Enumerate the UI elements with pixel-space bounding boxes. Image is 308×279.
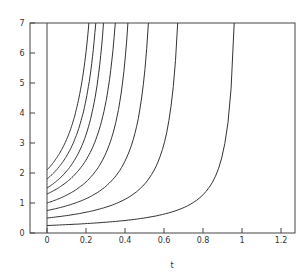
x-tick-label: 0.8 — [197, 236, 210, 245]
solution-curve — [47, 23, 104, 188]
x-tick-label: 0.6 — [158, 236, 171, 245]
y-axis-ticks: 01234567 — [19, 19, 35, 238]
y-tick-label: 2 — [19, 169, 24, 178]
y-tick-label: 4 — [19, 109, 24, 118]
plot-frame — [30, 23, 295, 233]
x-axis-label: t — [170, 261, 173, 270]
solution-curve — [47, 23, 89, 170]
x-tick-label: 1 — [239, 236, 244, 245]
solution-curves — [47, 23, 234, 226]
x-axis-ticks: 00.20.40.60.811.2 — [44, 228, 287, 245]
y-tick-label: 0 — [19, 229, 24, 238]
y-tick-label: 7 — [19, 19, 24, 28]
solution-curve — [47, 23, 148, 211]
x-tick-label: 1.2 — [275, 236, 288, 245]
chart: 00.20.40.60.811.2 01234567 t — [0, 0, 308, 279]
solution-curve — [47, 23, 234, 226]
y-tick-label: 1 — [19, 199, 24, 208]
x-tick-label: 0.4 — [119, 236, 132, 245]
y-tick-label: 6 — [19, 49, 24, 58]
x-tick-label: 0.2 — [80, 236, 93, 245]
y-tick-label: 3 — [19, 139, 24, 148]
x-tick-label: 0 — [44, 236, 49, 245]
y-tick-label: 5 — [19, 79, 24, 88]
